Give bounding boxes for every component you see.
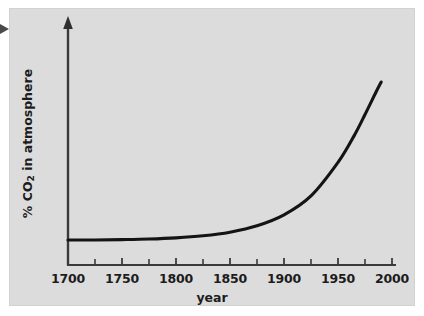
x-tick-label-1850: 1850 (213, 271, 247, 286)
y-axis-title-suffix: in atmosphere (21, 68, 36, 174)
plot-area: 1700 1750 1800 1850 1900 1950 2000 year … (9, 8, 415, 306)
y-axis-title: % CO2 in atmosphere (21, 68, 36, 217)
x-tick-label-1800: 1800 (159, 271, 193, 286)
y-axis (63, 16, 73, 265)
x-tick-label-1950: 1950 (321, 271, 355, 286)
y-axis-title-subscript: 2 (27, 175, 37, 181)
x-tick-label-2000: 2000 (375, 271, 409, 286)
x-tick-label-1900: 1900 (267, 271, 301, 286)
chart-canvas (9, 8, 415, 306)
y-axis-title-container: % CO2 in atmosphere (15, 8, 41, 278)
triangle-right-marker-icon (0, 24, 9, 34)
co2-data-curve (68, 82, 381, 240)
y-axis-title-prefix: % CO (21, 181, 36, 218)
chart-screenshot: 1700 1750 1800 1850 1900 1950 2000 year … (0, 0, 424, 316)
x-tick-label-1700: 1700 (51, 271, 85, 286)
x-axis-title: year (9, 290, 415, 305)
y-axis-arrowhead-icon (63, 16, 73, 29)
x-axis (67, 258, 396, 265)
x-tick-label-1750: 1750 (105, 271, 139, 286)
figure-panel: 1700 1750 1800 1850 1900 1950 2000 year … (9, 8, 415, 306)
